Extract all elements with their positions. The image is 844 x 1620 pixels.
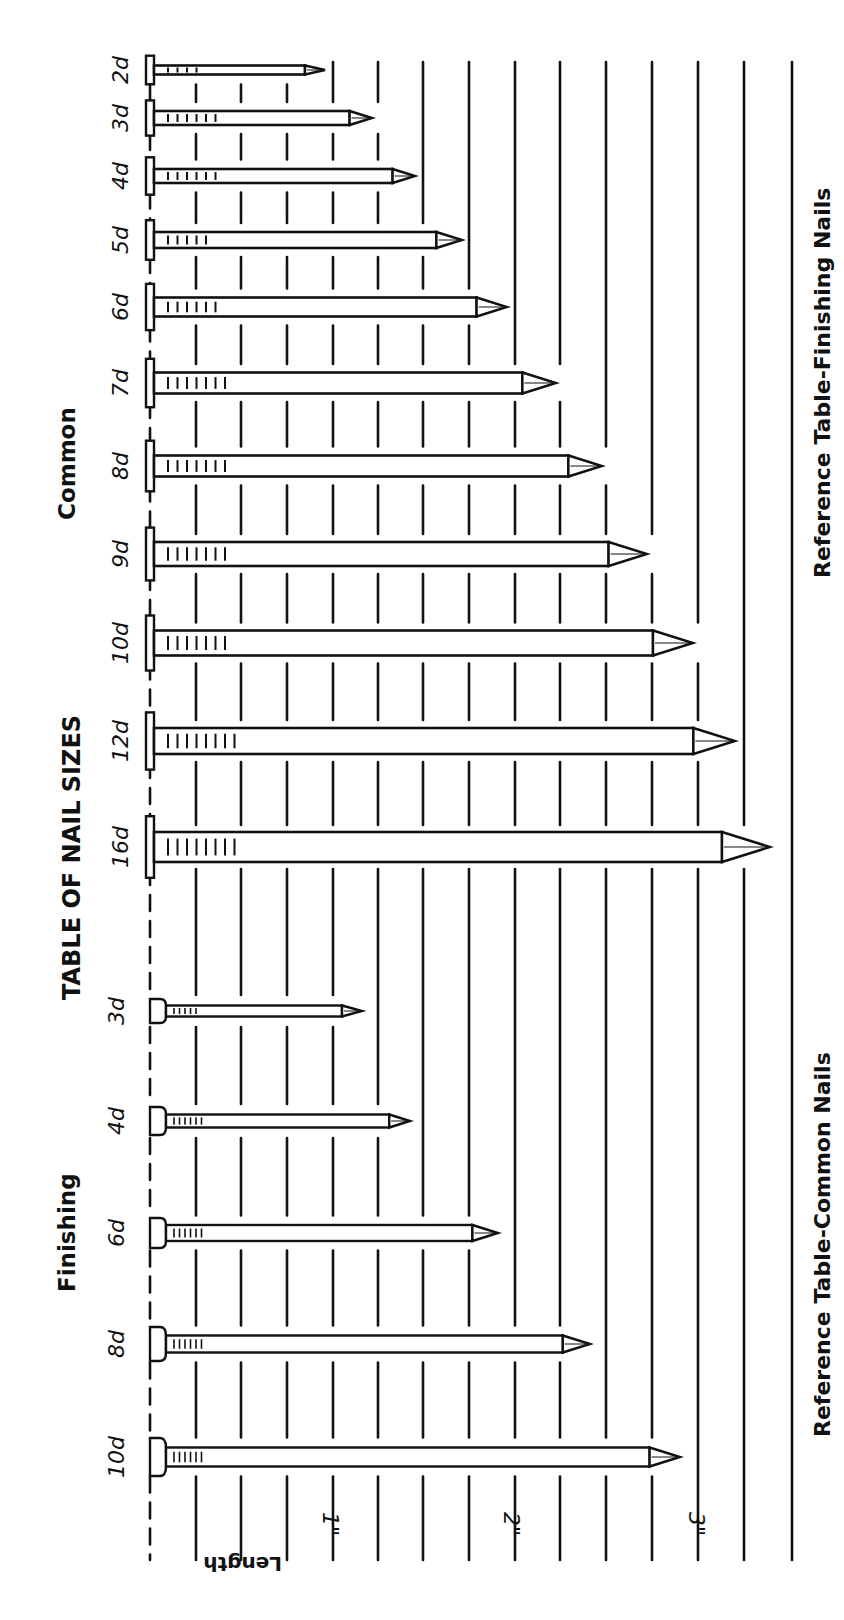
- reference-common-label: Reference Table-Common Nails: [810, 1052, 835, 1437]
- common-nail-5d: 5d: [108, 220, 462, 260]
- reference-finishing-label: Reference Table-Finishing Nails: [810, 188, 835, 578]
- finishing-group-label: Finishing: [54, 1173, 80, 1292]
- nail-shank: [166, 1448, 650, 1467]
- length-axis-label: Length: [203, 1552, 282, 1576]
- nail-head: [150, 999, 166, 1023]
- nail-size-label: 12d: [108, 719, 133, 762]
- nail-head: [150, 1107, 166, 1135]
- nail-size-label: 3d: [104, 996, 129, 1025]
- nail-shank: [154, 298, 477, 317]
- nail-head: [150, 1218, 166, 1248]
- finishing-nail-8d: 8d: [104, 1327, 590, 1361]
- nail-size-label: 7d: [108, 368, 133, 397]
- nail-shank: [166, 1225, 472, 1241]
- chart-title: TABLE OF NAIL SIZES: [58, 715, 86, 1000]
- nail-size-label: 6d: [108, 292, 133, 321]
- nail-shank: [154, 832, 722, 862]
- nail-size-label: 2d: [108, 55, 133, 84]
- nail-shank: [166, 1336, 563, 1353]
- nail-shank: [154, 169, 393, 183]
- nail-shank: [154, 373, 522, 394]
- nail-size-label: 10d: [108, 621, 133, 664]
- nail-size-label: 8d: [104, 1329, 129, 1358]
- axis-tick-label: 2": [499, 1512, 524, 1536]
- nail-size-label: 5d: [108, 225, 133, 254]
- nail-size-label: 10d: [104, 1435, 129, 1478]
- nail-size-chart: 2d3d4d5d6d7d8d9d10d12d16d3d4d6d8d10d 1"2…: [0, 0, 844, 1620]
- axis-tick-labels: 1"2"3": [318, 1512, 709, 1536]
- nail-size-label: 16d: [108, 825, 133, 868]
- common-nail-2d: 2d: [108, 55, 325, 84]
- common-nail-3d: 3d: [108, 100, 372, 135]
- common-nail-7d: 7d: [108, 359, 556, 407]
- axis-tick-label: 1": [318, 1512, 343, 1536]
- common-nail-12d: 12d: [108, 712, 735, 769]
- axis-tick-label: 3": [684, 1512, 709, 1536]
- common-nail-16d: 16d: [108, 816, 770, 878]
- nail-size-label: 4d: [108, 161, 133, 190]
- nail-shank: [166, 1006, 342, 1017]
- nail-shank: [166, 1115, 389, 1128]
- common-group-label: Common: [54, 407, 80, 520]
- nail-size-label: 4d: [104, 1106, 129, 1135]
- finishing-nail-3d: 3d: [104, 996, 362, 1025]
- nail-chart-drawing: 2d3d4d5d6d7d8d9d10d12d16d3d4d6d8d10d 1"2…: [0, 0, 844, 1620]
- common-nail-6d: 6d: [108, 284, 507, 330]
- nail-size-label: 9d: [108, 539, 133, 568]
- nail-shank: [154, 111, 350, 125]
- finishing-nail-6d: 6d: [104, 1218, 498, 1248]
- nail-size-label: 6d: [104, 1218, 129, 1247]
- nail-size-label: 8d: [108, 451, 133, 480]
- nail-head: [150, 1438, 166, 1476]
- nail-shank: [154, 542, 609, 566]
- nail-head: [150, 1327, 166, 1361]
- common-nail-9d: 9d: [108, 528, 647, 581]
- finishing-nail-10d: 10d: [104, 1435, 680, 1478]
- common-nail-4d: 4d: [108, 157, 415, 194]
- nail-shank: [154, 631, 653, 656]
- nail-illustrations: 2d3d4d5d6d7d8d9d10d12d16d3d4d6d8d10d: [104, 55, 770, 1478]
- nail-size-label: 3d: [108, 103, 133, 132]
- common-nail-8d: 8d: [108, 441, 602, 492]
- finishing-nail-4d: 4d: [104, 1106, 410, 1135]
